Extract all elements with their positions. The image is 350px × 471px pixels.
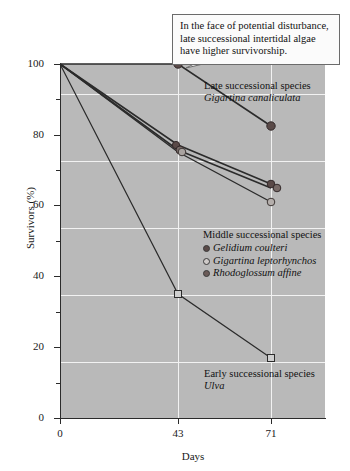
legend-item-gigartina-leptorhynchos: Gigartina leptorhynchos — [203, 255, 348, 267]
legend-marker-open-circle-icon — [203, 258, 210, 265]
annotation-late-successional: Late successional species Gigartina cana… — [204, 80, 344, 105]
annotation-late-title: Late successional species — [204, 80, 344, 92]
legend-marker-filled-circle-icon — [203, 245, 210, 252]
callout-box: In the face of potential disturbance, la… — [172, 14, 340, 65]
data-point-gigartina-leptorhynchos-71 — [267, 198, 275, 206]
series-line-ulva — [60, 64, 271, 358]
figure-container: 100 80 60 40 20 0 0 43 71 Survivors (%) … — [0, 0, 350, 471]
callout-text: In the face of potential disturbance, la… — [180, 20, 332, 58]
data-point-gigartina-leptorhynchos-43 — [178, 148, 186, 156]
annotation-early-title: Early successional species — [204, 368, 344, 380]
legend-marker-filled-circle-alt-icon — [203, 270, 210, 277]
data-point-ulva-71 — [268, 355, 275, 362]
annotation-early-species: Ulva — [204, 380, 344, 392]
data-point-gigartina-canaliculata-71 — [267, 122, 275, 130]
annotation-early-successional: Early successional species Ulva — [204, 368, 344, 393]
annotation-late-species: Gigartina canaliculata — [204, 92, 344, 104]
data-point-ulva-43 — [175, 291, 182, 298]
legend-item-gelidium-coulteri: Gelidium coulteri — [203, 242, 348, 254]
legend-label-rhodoglossum-affine: Rhodoglossum affine — [213, 267, 301, 279]
legend-title: Middle successional species — [203, 229, 348, 241]
data-point-rhodoglossum-affine-71 — [273, 184, 281, 192]
legend-item-rhodoglossum-affine: Rhodoglossum affine — [203, 267, 348, 279]
legend-middle-successional: Middle successional species Gelidium cou… — [203, 229, 348, 280]
legend-label-gigartina-leptorhynchos: Gigartina leptorhynchos — [213, 255, 316, 267]
legend-label-gelidium-coulteri: Gelidium coulteri — [213, 242, 287, 254]
